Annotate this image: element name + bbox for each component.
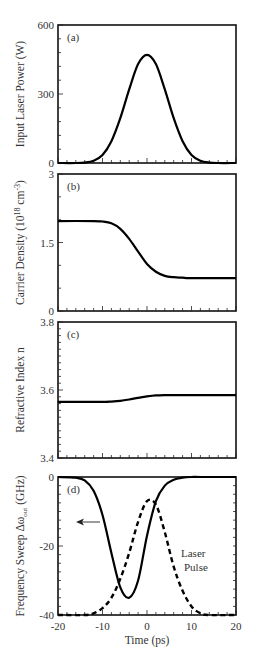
x-tick-label: -20: [51, 620, 66, 632]
annotation-laser: Laser: [181, 547, 206, 559]
data-curve: [58, 55, 236, 163]
y-tick-label: 0: [49, 471, 55, 483]
x-axis-label: Time (ps): [125, 634, 170, 647]
plot-frame: [58, 25, 236, 163]
panel-a: 0300600(a)Input Laser Power (W): [14, 19, 236, 169]
annotation-pulse: Pulse: [184, 561, 208, 573]
y-tick-label: 1.5: [40, 237, 54, 249]
panel-d: -40-200(d)Frequency Sweep Δωout (GHz)Las…: [14, 471, 242, 647]
x-tick-label: 20: [231, 620, 243, 632]
data-curve: [58, 221, 236, 278]
plot-frame: [58, 477, 236, 615]
y-tick-label: 3: [49, 168, 55, 180]
figure: 0300600(a)Input Laser Power (W)01.53(b)C…: [0, 0, 253, 668]
y-axis-label: Input Laser Power (W): [14, 41, 27, 148]
y-tick-label: 3.6: [40, 384, 54, 396]
y-axis-label: Carrier Density (1018 cm-3): [13, 180, 27, 305]
plot-frame: [58, 322, 236, 458]
y-axis-label: Frequency Sweep Δωout (GHz): [14, 475, 29, 616]
panel-tag: (c): [67, 328, 80, 341]
panels: 0300600(a)Input Laser Power (W)01.53(b)C…: [13, 19, 242, 647]
y-tick-label: 300: [38, 88, 55, 100]
y-axis-label: Refractive Index n: [14, 347, 26, 433]
y-tick-label: -20: [39, 540, 54, 552]
y-tick-label: 600: [38, 19, 55, 31]
plot-frame: [58, 174, 236, 311]
data-curve: [58, 395, 236, 402]
y-tick-label: 3.4: [40, 452, 54, 464]
panel-tag: (b): [67, 180, 80, 193]
panel-b: 01.53(b)Carrier Density (1018 cm-3): [13, 168, 236, 317]
y-tick-label: 3.8: [40, 316, 54, 328]
panel-tag: (a): [67, 31, 80, 44]
panel-tag: (d): [67, 483, 80, 496]
data-curve: [58, 477, 236, 598]
laser-pulse-curve: [58, 500, 236, 616]
panel-c: 3.43.63.8(c)Refractive Index n: [14, 316, 236, 464]
x-tick-label: 0: [144, 620, 150, 632]
x-tick-label: -10: [95, 620, 110, 632]
x-tick-label: 10: [186, 620, 198, 632]
